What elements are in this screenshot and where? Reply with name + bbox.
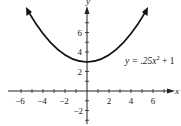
parabola-chart: −6 −4 −2 2 4 6 6 4 2 −2 x y y = .25x2 + … xyxy=(0,0,181,126)
equation-label: y = .25x2 + 1 xyxy=(124,54,175,66)
curve-arrow-left-icon xyxy=(26,7,32,16)
y-axis-label: y xyxy=(85,0,90,6)
x-axis-label: x xyxy=(174,86,179,96)
y-tick-label: 4 xyxy=(78,47,83,57)
x-tick-label: −2 xyxy=(59,96,69,106)
y-tick-label: 6 xyxy=(78,28,83,38)
y-axis-arrow-icon xyxy=(85,6,90,14)
y-tick-label: 2 xyxy=(78,67,83,77)
x-tick-label: −4 xyxy=(37,96,47,106)
x-axis-arrow-icon xyxy=(167,89,175,94)
x-tick-label: 4 xyxy=(129,96,134,106)
x-tick-label: −6 xyxy=(15,96,25,106)
x-tick-label: 2 xyxy=(107,96,112,106)
curve-arrow-right-icon xyxy=(142,7,148,16)
x-tick-label: 6 xyxy=(151,96,156,106)
y-tick-label: −2 xyxy=(73,106,83,116)
